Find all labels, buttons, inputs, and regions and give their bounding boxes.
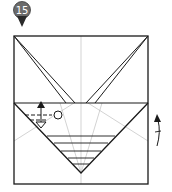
reference-circle <box>54 111 62 119</box>
origami-diagram <box>0 0 172 192</box>
turn-over-arrow-icon <box>154 114 161 146</box>
arrow-up-icon <box>37 101 45 108</box>
pleat-fold-symbol <box>25 101 62 128</box>
